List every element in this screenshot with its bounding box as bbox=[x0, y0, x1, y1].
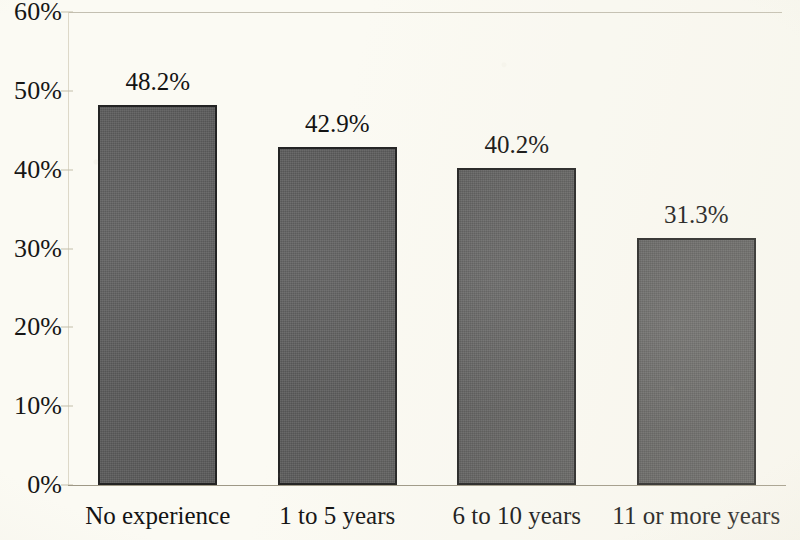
y-axis-tick-mark bbox=[61, 12, 73, 13]
x-axis-category-label: 11 or more years bbox=[601, 503, 791, 528]
y-axis-tick-label: 0% bbox=[0, 472, 62, 498]
x-axis-baseline bbox=[68, 485, 786, 486]
y-axis-tick-mark bbox=[61, 406, 73, 407]
plot-top-border bbox=[68, 12, 782, 13]
bar bbox=[637, 238, 756, 485]
bar-value-label: 42.9% bbox=[247, 111, 427, 136]
bar-value-label: 31.3% bbox=[606, 202, 786, 227]
y-axis-tick-label: 50% bbox=[0, 78, 62, 104]
x-axis-category-label: No experience bbox=[63, 503, 253, 528]
bar-value-label: 48.2% bbox=[68, 69, 248, 94]
y-axis-tick-mark bbox=[61, 327, 73, 328]
bar bbox=[98, 105, 217, 485]
bar-chart: 60%50%40%30%20%10%0% 48.2%42.9%40.2%31.3… bbox=[0, 0, 800, 540]
y-axis-tick-mark bbox=[61, 169, 73, 170]
y-axis-tick-label: 40% bbox=[0, 157, 62, 183]
x-axis-category-label: 1 to 5 years bbox=[242, 503, 432, 528]
bar bbox=[457, 168, 576, 485]
bar bbox=[278, 147, 397, 485]
x-axis-category-label: 6 to 10 years bbox=[422, 503, 612, 528]
bar-value-label: 40.2% bbox=[427, 132, 607, 157]
y-axis-tick-label: 20% bbox=[0, 314, 62, 340]
y-axis-tick-label: 10% bbox=[0, 393, 62, 419]
y-axis-tick-label: 30% bbox=[0, 236, 62, 262]
y-axis-tick-label: 60% bbox=[0, 0, 62, 25]
y-axis-tick-mark bbox=[61, 248, 73, 249]
